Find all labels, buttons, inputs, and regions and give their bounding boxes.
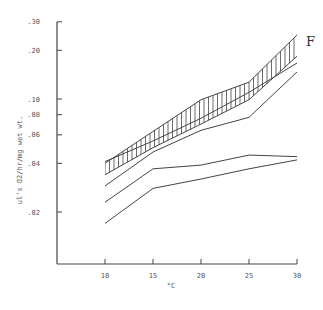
panel-label: F (306, 34, 315, 49)
y-tick-label: .30 (27, 18, 40, 26)
x-tick-label: 30 (293, 272, 301, 280)
x-tick-label: 25 (245, 272, 253, 280)
y-tick-label: .10 (27, 96, 40, 104)
y-tick-label: .08 (27, 111, 40, 119)
series-lines (105, 63, 297, 223)
chart: .30.20.10.08.06.04.021015202530 °C ul's … (0, 0, 323, 310)
x-tick-label: 20 (197, 272, 205, 280)
band-lower-edge (105, 56, 297, 175)
y-tick-label: .06 (27, 131, 40, 139)
x-tick-label: 10 (101, 272, 109, 280)
y-tick-label: .04 (27, 160, 40, 168)
series-line (105, 72, 297, 186)
y-axis-title: ul's O2/hr/mg wet wt. (16, 116, 24, 205)
axes: .30.20.10.08.06.04.021015202530 (27, 18, 301, 280)
hatched-band (105, 20, 297, 260)
series-line (105, 63, 297, 162)
x-tick-label: 15 (149, 272, 157, 280)
series-line (105, 160, 297, 224)
x-axis-title: °C (167, 282, 175, 290)
y-tick-label: .02 (27, 209, 40, 217)
y-tick-label: .20 (27, 47, 40, 55)
